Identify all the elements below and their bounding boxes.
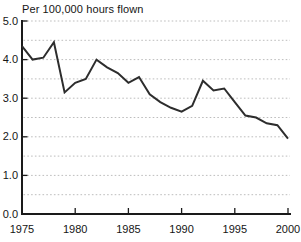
line-chart-canvas: Per 100,000 hours flown 0.01.02.03.04.05… <box>0 0 301 242</box>
x-tick-label: 1975 <box>10 223 34 235</box>
y-tick-label: 4.0 <box>3 53 18 65</box>
x-tick-label: 2000 <box>276 223 300 235</box>
x-tick-label: 1985 <box>116 223 140 235</box>
data-line <box>22 42 288 139</box>
y-tick-label: 0.0 <box>3 208 18 220</box>
y-tick-label: 1.0 <box>3 169 18 181</box>
y-tick-label: 2.0 <box>3 130 18 142</box>
y-tick-label: 5.0 <box>3 15 18 27</box>
chart-title: Per 100,000 hours flown <box>22 3 144 15</box>
x-tick-label: 1995 <box>223 223 247 235</box>
x-tick-label: 1980 <box>63 223 87 235</box>
y-tick-label: 3.0 <box>3 92 18 104</box>
x-tick-label: 1990 <box>169 223 193 235</box>
chart-figure: Per 100,000 hours flown 0.01.02.03.04.05… <box>0 0 301 242</box>
